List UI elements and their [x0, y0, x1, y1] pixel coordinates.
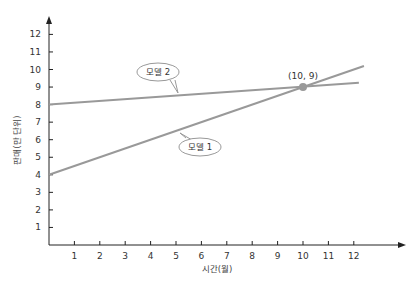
y-tick-label: 9	[35, 82, 41, 92]
y-tick-label: 2	[35, 205, 41, 215]
series-line-2	[49, 83, 359, 105]
callouts: 모델 2모델 1	[137, 63, 221, 156]
x-tick-label: 8	[249, 251, 255, 261]
line-chart: 123456789101112123456789101112 (10, 9) 모…	[0, 0, 413, 289]
y-tick-label: 12	[30, 29, 41, 39]
x-tick-label: 1	[72, 251, 78, 261]
x-tick-label: 12	[348, 251, 359, 261]
x-tick-label: 5	[173, 251, 179, 261]
y-tick-label: 1	[35, 222, 41, 232]
series-lines: (10, 9)	[49, 66, 364, 175]
x-axis-label: 시간(월)	[202, 264, 233, 274]
y-tick-label: 6	[35, 135, 41, 145]
axes	[46, 16, 406, 248]
x-tick-label: 4	[148, 251, 154, 261]
x-tick-label: 9	[275, 251, 281, 261]
intersection-point	[299, 83, 307, 91]
y-tick-label: 4	[35, 170, 41, 180]
x-tick-label: 7	[224, 251, 230, 261]
x-tick-label: 6	[199, 251, 205, 261]
x-tick-label: 11	[323, 251, 334, 261]
callout-model-1-label: 모델 1	[188, 142, 212, 152]
x-tick-label: 3	[122, 251, 128, 261]
series-line-1	[49, 66, 364, 175]
x-tick-label: 10	[297, 251, 309, 261]
x-axis-arrow-icon	[398, 242, 406, 248]
y-axis-arrow-icon	[46, 16, 52, 24]
y-tick-label: 3	[35, 187, 41, 197]
y-tick-label: 5	[35, 152, 41, 162]
y-axis-label: 판매(만 단위)	[12, 115, 22, 164]
x-tick-label: 2	[97, 251, 103, 261]
y-tick-label: 8	[35, 100, 41, 110]
y-tick-label: 10	[30, 65, 42, 75]
y-tick-label: 11	[30, 47, 41, 57]
intersection-label: (10, 9)	[288, 71, 318, 81]
y-tick-label: 7	[35, 117, 41, 127]
callout-model-2-label: 모델 2	[146, 67, 170, 77]
